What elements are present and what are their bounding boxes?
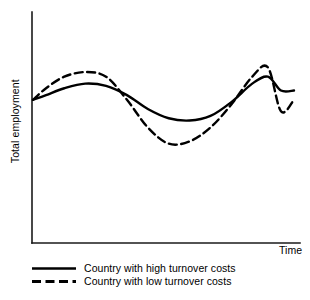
series-line-high-turnover — [33, 76, 294, 120]
series-line-low-turnover — [33, 66, 294, 145]
chart-legend: Country with high turnover costs Country… — [30, 262, 304, 288]
legend-item-high-turnover: Country with high turnover costs — [30, 262, 304, 275]
legend-dashed-line-icon — [30, 275, 78, 288]
chart-canvas — [0, 0, 310, 300]
legend-solid-line-icon — [30, 262, 78, 275]
legend-item-low-turnover: Country with low turnover costs — [30, 275, 304, 288]
legend-label-low-turnover: Country with low turnover costs — [78, 275, 231, 288]
x-axis-label: Time — [279, 245, 302, 256]
legend-label-high-turnover: Country with high turnover costs — [78, 262, 236, 275]
employment-turnover-chart: Total employment Time Country with high … — [0, 0, 310, 300]
